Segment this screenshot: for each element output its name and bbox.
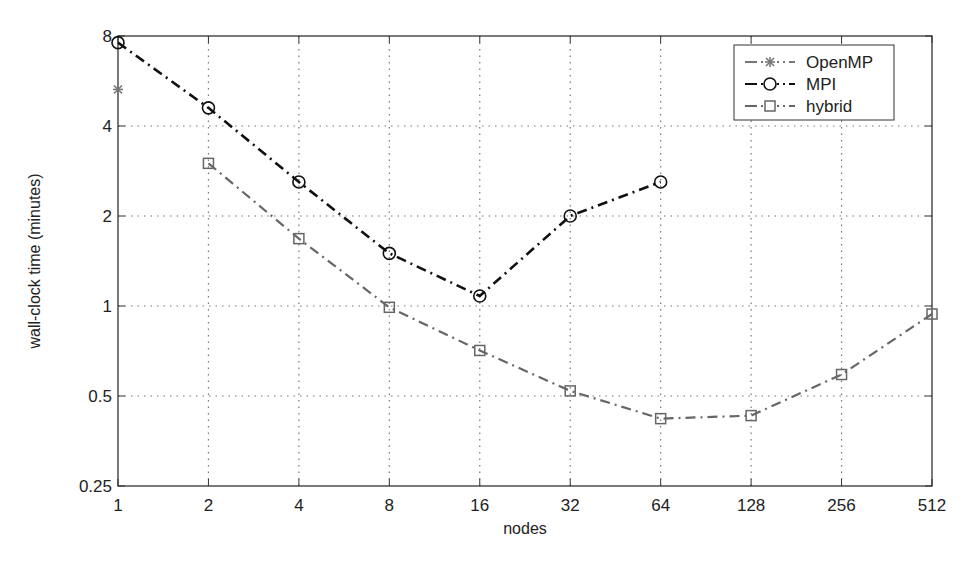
x-tick-label: 16 xyxy=(470,496,489,515)
x-tick-label: 2 xyxy=(204,496,213,515)
line-chart: 12481632641282565120.250.51248 nodes wal… xyxy=(0,0,970,561)
y-tick-label: 0.25 xyxy=(79,477,112,496)
legend-label: OpenMP xyxy=(806,53,873,72)
y-axis-label: wall-clock time (minutes) xyxy=(26,173,43,349)
legend: OpenMPMPIhybrid xyxy=(734,45,894,120)
y-tick-label: 4 xyxy=(103,117,112,136)
legend-label: MPI xyxy=(806,75,836,94)
x-tick-label: 8 xyxy=(385,496,394,515)
legend-label: hybrid xyxy=(806,97,852,116)
y-tick-label: 8 xyxy=(103,27,112,46)
x-tick-label: 64 xyxy=(651,496,670,515)
x-tick-label: 32 xyxy=(561,496,580,515)
x-tick-label: 4 xyxy=(294,496,303,515)
x-axis-label: nodes xyxy=(503,520,547,537)
x-tick-label: 512 xyxy=(918,496,946,515)
x-tick-label: 1 xyxy=(113,496,122,515)
y-tick-label: 0.5 xyxy=(88,387,112,406)
y-tick-label: 1 xyxy=(103,297,112,316)
x-tick-label: 128 xyxy=(737,496,765,515)
y-tick-label: 2 xyxy=(103,207,112,226)
series-openmp xyxy=(113,84,123,94)
x-tick-label: 256 xyxy=(827,496,855,515)
